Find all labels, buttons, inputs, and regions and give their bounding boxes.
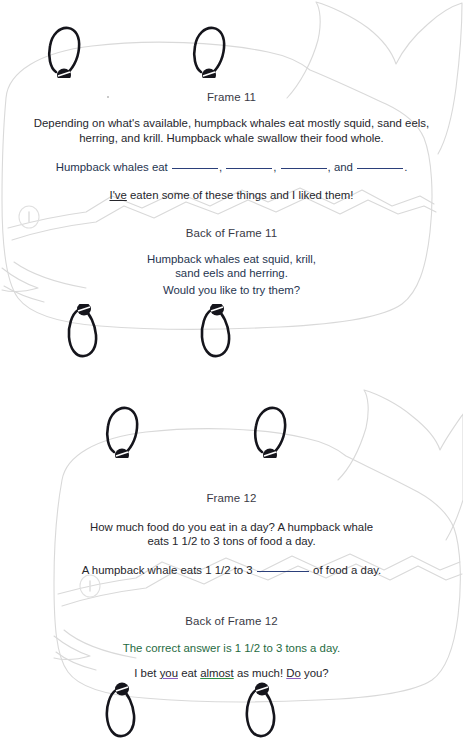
blank-1[interactable] (172, 168, 218, 169)
frame-11-answer-line-1: Humpback whales eat squid, krill, (0, 252, 463, 266)
frame-11-note: I've eaten some of these things and I li… (0, 188, 463, 203)
frame-12-front-line-2: eats 1 1/2 to 3 tons of food a day. (0, 534, 463, 548)
blank-2[interactable] (226, 168, 272, 169)
blank-frame-12[interactable] (257, 571, 309, 572)
fill-in-suffix-2: of food a day. (313, 564, 381, 576)
frame-11-back-title: Back of Frame 11 (0, 227, 463, 239)
note-rest: eaten some of these things and I liked t… (127, 189, 354, 201)
closing-part-2: eat (178, 667, 200, 679)
frame-12-closing: I bet you eat almost as much! Do you? (0, 666, 463, 681)
frame-11-answer-line-2: sand eels and herring. (0, 266, 463, 280)
frame-12-fill-in-sentence: A humpback whale eats 1 1/2 to 3 of food… (0, 563, 463, 578)
spiral-binding-rings-top (0, 18, 463, 78)
frame-11-prompt-row: Would you like to try them? (0, 283, 463, 298)
sep-1: , (219, 161, 222, 173)
closing-word-you: you (160, 667, 178, 679)
fill-in-prefix: Humpback whales eat (56, 161, 168, 173)
frame-12-title-row: Frame 12 (0, 492, 463, 504)
fill-in-prefix-2: A humpback whale eats 1 1/2 to 3 (82, 564, 253, 576)
closing-part-3: as much! (234, 667, 287, 679)
spiral-binding-rings-top-2 (0, 398, 463, 458)
sep-2: , (273, 161, 276, 173)
frame-11-fill-in-row: Humpback whales eat , , , and . (0, 160, 463, 175)
sep-3: , (328, 161, 331, 173)
frame-11-note-row: I've eaten some of these things and I li… (0, 188, 463, 203)
blank-3[interactable] (281, 168, 327, 169)
whale-eye-group (19, 206, 39, 228)
frame-12-back-title: Back of Frame 12 (0, 615, 463, 627)
note-underlined-word: I've (109, 189, 126, 201)
frame-12-closing-row: I bet you eat almost as much! Do you? (0, 666, 463, 681)
frame-11-title-row: Frame 11 (0, 91, 463, 103)
frame-11-front-paragraph: Depending on what's available, humpback … (0, 116, 463, 145)
frame-12-fill-in-row: A humpback whale eats 1 1/2 to 3 of food… (0, 563, 463, 578)
fill-in-conjunction: and (334, 161, 353, 173)
spiral-binding-rings-bottom-2 (0, 678, 463, 738)
frame-11-back-title-row: Back of Frame 11 (0, 227, 463, 239)
frame-11-title: Frame 11 (0, 91, 463, 103)
frame-12-back-title-row: Back of Frame 12 (0, 615, 463, 627)
flashcard-frame-12: Frame 12 How much food do you eat in a d… (0, 380, 463, 732)
frame-12-title: Frame 12 (0, 492, 463, 504)
frame-12-front-line-1: How much food do you eat in a day? A hum… (0, 520, 463, 534)
frame-12-answer: The correct answer is 1 1/2 to 3 tons a … (0, 641, 463, 656)
spiral-binding-rings-bottom (0, 304, 463, 364)
blank-4[interactable] (357, 168, 403, 169)
closing-part-1: I bet (134, 667, 159, 679)
frame-11-fill-in-sentence: Humpback whales eat , , , and . (0, 160, 463, 175)
fill-in-terminator: . (404, 161, 407, 173)
closing-part-4: you? (301, 667, 329, 679)
closing-word-do: Do (286, 667, 301, 679)
closing-word-almost: almost (200, 667, 234, 679)
flashcard-frame-11: Frame 11 Depending on what's available, … (0, 0, 463, 365)
frame-11-back-answer-row: Humpback whales eat squid, krill, sand e… (0, 252, 463, 280)
frame-11-prompt: Would you like to try them? (0, 283, 463, 298)
frame-11-front-paragraph-row: Depending on what's available, humpback … (0, 116, 463, 145)
frame-12-back-answer-row: The correct answer is 1 1/2 to 3 tons a … (0, 641, 463, 656)
whale-eye-group-2 (80, 575, 100, 597)
whale-outline-watermark (0, 0, 463, 365)
scan-speck (107, 96, 109, 98)
frame-12-front-paragraph-row: How much food do you eat in a day? A hum… (0, 520, 463, 548)
